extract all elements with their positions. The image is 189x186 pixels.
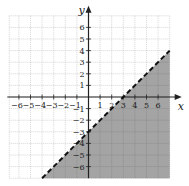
- y-axis-label: y: [78, 4, 86, 17]
- y-axis-arrow-icon: [86, 6, 92, 13]
- x-axis-label: x: [178, 100, 185, 113]
- x-tick-label: −3: [46, 101, 58, 110]
- y-tick-label: 1: [79, 81, 84, 90]
- x-tick-label: −6: [11, 101, 23, 110]
- y-tick-label: −3: [73, 128, 85, 137]
- x-tick-label: 4: [132, 101, 137, 110]
- x-tick-label: 3: [121, 101, 126, 110]
- x-tick-label: 1: [98, 101, 103, 110]
- y-tick-label: 2: [79, 70, 84, 79]
- y-tick-label: −5: [73, 151, 85, 160]
- y-tick-label: 3: [79, 58, 84, 67]
- y-tick-label: −1: [73, 105, 85, 114]
- y-tick-label: 4: [79, 47, 84, 56]
- inequality-graph: −6−5−4−3−2−1123456−6−5−4−3−2−1123456 x y: [0, 0, 189, 186]
- x-tick-label: −5: [23, 101, 35, 110]
- y-tick-label: −6: [73, 163, 85, 172]
- y-tick-label: 6: [79, 23, 84, 32]
- x-tick-label: 6: [156, 101, 161, 110]
- x-tick-label: 5: [144, 101, 149, 110]
- y-tick-label: −2: [73, 116, 85, 125]
- y-tick-label: 5: [79, 35, 84, 44]
- x-tick-label: −2: [57, 101, 69, 110]
- x-tick-label: −4: [34, 101, 46, 110]
